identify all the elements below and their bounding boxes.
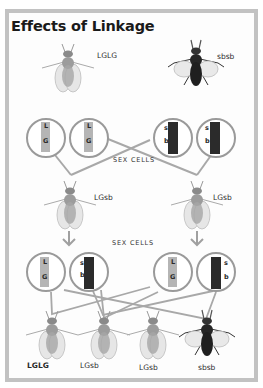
allele-label: b [80,271,85,279]
allele-label: s [205,124,209,132]
allele-label: G [170,273,175,281]
page-title: Effects of Linkage [11,18,154,34]
allele-label: b [164,137,169,145]
allele-label: G [43,137,48,145]
inheritance-lines-bottom [51,287,216,319]
sex-cell-row1-3 [154,119,192,157]
parent-fly-pale [42,44,94,92]
f2-fly-1 [26,311,78,359]
f1-fly-left [44,181,96,229]
parent-fly-dark [168,40,224,86]
allele-label: b [224,273,229,281]
genotype-label: LGsb [94,193,113,202]
allele-label: G [86,137,91,145]
genotype-label: LGLG [27,361,49,370]
sex-cells-label: SEX CELLS [112,239,154,247]
f1-fly-right [171,181,223,229]
allele-label: G [42,273,47,281]
arrow-down-icon [191,231,203,245]
f2-fly-3 [127,311,179,359]
arrow-down-icon [63,231,75,245]
allele-label: L [171,258,175,266]
sex-cells-label: SEX CELLS [113,156,155,164]
allele-label: s [164,124,168,132]
allele-label: s [224,259,228,267]
allele-label: L [87,122,91,130]
sex-cell-row2-4 [197,253,235,291]
genotype-label: sbsb [198,363,215,372]
allele-label: L [43,258,47,266]
genotype-label: LGsb [213,193,232,202]
f2-fly-2 [78,311,130,359]
sex-cell-row1-4 [197,119,235,157]
allele-label: s [80,259,84,267]
sex-cell-row2-2 [70,253,108,291]
genotype-label: LGsb [80,361,99,370]
allele-label: b [205,137,210,145]
allele-label: L [44,122,48,130]
genotype-label: sbsb [217,52,234,61]
genotype-label: LGLG [97,51,117,60]
genotype-label: LGsb [139,363,158,372]
